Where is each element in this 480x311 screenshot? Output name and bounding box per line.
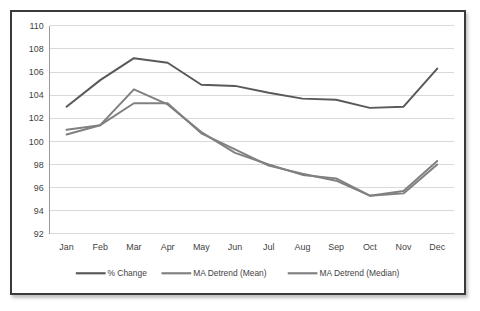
legend-group: % ChangeMA Detrend (Mean)MA Detrend (Med… xyxy=(76,268,400,278)
y-axis-tick-label: 102 xyxy=(29,113,44,123)
y-axis-tick-label: 96 xyxy=(34,183,44,193)
y-axis-tick-label: 100 xyxy=(29,137,44,147)
y-axis-tick-label: 98 xyxy=(34,160,44,170)
series-line-1 xyxy=(67,89,438,195)
y-axis-tick-label: 92 xyxy=(34,229,44,239)
y-axis-tick-label: 108 xyxy=(29,44,44,54)
y-axis-labels-group: 92949698100102104106108110 xyxy=(29,21,44,239)
y-axis-tick-label: 104 xyxy=(29,90,44,100)
x-axis-tick-label: Feb xyxy=(93,242,108,252)
series-line-0 xyxy=(67,58,438,108)
x-axis-tick-label: Dec xyxy=(429,242,445,252)
legend-label-1: MA Detrend (Mean) xyxy=(193,268,267,278)
y-axis-tick-label: 94 xyxy=(34,206,44,216)
gridlines-group xyxy=(50,26,454,234)
x-axis-tick-label: Nov xyxy=(396,242,412,252)
x-axis-tick-label: Oct xyxy=(363,242,377,252)
x-axis-tick-label: Sep xyxy=(328,242,344,252)
x-axis-tick-label: May xyxy=(193,242,210,252)
x-axis-tick-label: Jan xyxy=(59,242,73,252)
x-axis-labels-group: JanFebMarAprMayJunJulAugSepOctNovDec xyxy=(59,242,445,252)
line-chart: 92949698100102104106108110 JanFebMarAprM… xyxy=(12,12,464,293)
series-line-2 xyxy=(67,103,438,195)
x-axis-tick-label: Jul xyxy=(263,242,274,252)
y-axis-tick-label: 106 xyxy=(29,67,44,77)
legend-label-2: MA Detrend (Median) xyxy=(319,268,399,278)
x-axis-tick-label: Apr xyxy=(161,242,175,252)
chart-frame: 92949698100102104106108110 JanFebMarAprM… xyxy=(10,10,466,295)
y-axis-tick-label: 110 xyxy=(30,21,44,31)
x-axis-tick-label: Mar xyxy=(126,242,141,252)
legend-label-0: % Change xyxy=(108,268,148,278)
series-group xyxy=(67,58,438,196)
x-axis-tick-label: Aug xyxy=(295,242,311,252)
x-axis-tick-label: Jun xyxy=(228,242,242,252)
